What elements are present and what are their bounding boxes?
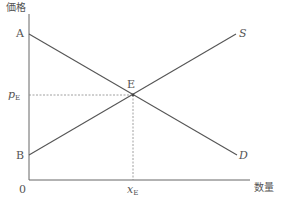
equilibrium-price-label: pE — [8, 89, 20, 102]
demand-curve-label: D — [239, 150, 248, 161]
point-b-label: B — [16, 150, 24, 161]
equilibrium-quantity-label: xE — [127, 184, 138, 197]
y-axis-label: 価格 — [6, 3, 26, 13]
x-axis-label: 数量 — [254, 183, 274, 193]
supply-curve-label: S — [239, 28, 247, 39]
equilibrium-price-main: p — [8, 88, 15, 101]
point-a-label: A — [16, 28, 24, 39]
equilibrium-point — [132, 94, 135, 97]
equilibrium-quantity-sub: E — [133, 189, 138, 197]
equilibrium-price-sub: E — [15, 94, 20, 102]
origin-label: 0 — [19, 184, 26, 195]
equilibrium-label: E — [127, 79, 135, 90]
